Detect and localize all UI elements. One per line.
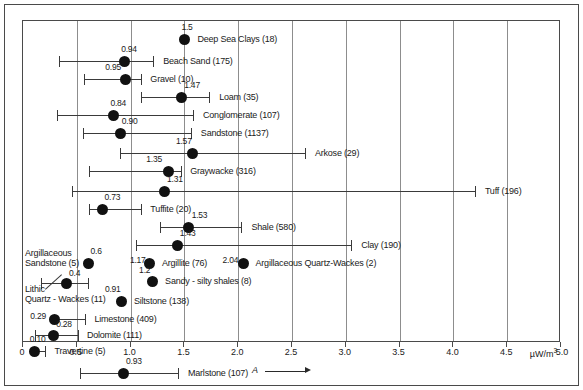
whisker-cap-low	[141, 92, 142, 103]
mean-value-label: 0.28	[56, 320, 72, 329]
whisker-cap-low	[84, 74, 85, 85]
mean-value-label: 0.94	[121, 45, 137, 54]
mean-value-label: 1.57	[176, 137, 192, 146]
x-axis: 00.51.01.52.02.53.03.54.04.55.0 µW/m3	[22, 342, 560, 356]
x-axis-title: A	[22, 365, 560, 379]
axis-tick-label: 4.0	[446, 347, 459, 357]
data-row: 1.35Graywacke (316)	[23, 163, 559, 181]
axis-tick-label: 1.5	[177, 347, 190, 357]
mean-value-label: 0.84	[110, 99, 126, 108]
data-row: 1.43Clay (190)	[23, 237, 559, 255]
mean-dot[interactable]	[48, 330, 59, 341]
mean-value-label: 0.29	[30, 312, 46, 321]
axis-tick-label: 3.0	[339, 347, 352, 357]
data-row: 0.95Gravel (10)	[23, 71, 559, 89]
range-whisker	[72, 191, 474, 192]
data-row: 1.57Arkose (29)	[23, 145, 559, 163]
argillaceous-sandstone-label: ArgillaceousSandstone (5)	[25, 249, 79, 268]
range-whisker	[83, 133, 191, 134]
mean-value-label: 2.04	[223, 256, 239, 265]
mean-value-label: 1.43	[180, 229, 196, 238]
mean-value-label: 0.73	[105, 193, 121, 202]
data-row: 0.90Sandstone (1137)	[23, 125, 559, 143]
whisker-cap-low	[89, 166, 90, 177]
mean-dot[interactable]	[120, 74, 131, 85]
series-label: Conglomerate (107)	[203, 110, 279, 120]
mean-value-label: 1.53	[192, 211, 208, 220]
mean-value-label: 0.95	[105, 63, 121, 72]
whisker-cap-high	[78, 330, 79, 341]
figure-root: 1.5Deep Sea Clays (18)0.94Beach Sand (17…	[0, 0, 583, 390]
series-label: Arkose (29)	[315, 148, 359, 158]
series-label: Loam (35)	[219, 92, 258, 102]
whisker-cap-high	[209, 92, 210, 103]
x-axis-arrow-line	[265, 371, 307, 372]
data-row: 0.94Beach Sand (175)	[23, 53, 559, 71]
mean-dot[interactable]	[108, 110, 119, 121]
mean-value-label: 1.5	[181, 23, 192, 32]
whisker-cap-high	[241, 222, 242, 233]
x-axis-unit: µW/m3	[530, 347, 557, 359]
series-label: Clay (190)	[361, 240, 401, 250]
axis-tick-label: 2.0	[231, 347, 244, 357]
whisker-cap-high	[193, 110, 194, 121]
mean-dot[interactable]	[147, 276, 158, 287]
series-label: Sandstone (1137)	[201, 128, 269, 138]
whisker-cap-low	[59, 56, 60, 67]
data-rows: 1.5Deep Sea Clays (18)0.94Beach Sand (17…	[23, 21, 559, 341]
mean-dot[interactable]	[97, 204, 108, 215]
mean-value-label: 0.91	[105, 285, 121, 294]
mean-dot[interactable]	[116, 296, 127, 307]
data-row: 2.04Argillaceous Quartz-Wackes (2)	[23, 255, 559, 273]
series-label: Siltstone (138)	[134, 296, 189, 306]
series-label: Tuff (196)	[485, 186, 522, 196]
x-axis-arrow-head	[305, 367, 311, 373]
mean-dot[interactable]	[176, 92, 187, 103]
mean-dot[interactable]	[238, 258, 249, 269]
mean-dot[interactable]	[187, 148, 198, 159]
mean-dot[interactable]	[179, 34, 190, 45]
range-whisker	[136, 245, 351, 246]
data-row: 1.47Loam (35)	[23, 89, 559, 107]
lithic-quartz-wackes-label: LithicQuartz - Wackes (11)	[25, 285, 106, 304]
data-row: 1.53Shale (580)	[23, 219, 559, 237]
mean-value-label: 1.47	[184, 81, 200, 90]
whisker-cap-high	[141, 74, 142, 85]
whisker-cap-high	[141, 204, 142, 215]
whisker-cap-low	[160, 222, 161, 233]
plot-area: 1.5Deep Sea Clays (18)0.94Beach Sand (17…	[22, 20, 560, 342]
whisker-cap-high	[475, 186, 476, 197]
axis-tick-label: 0	[19, 347, 24, 357]
whisker-cap-low	[120, 148, 121, 159]
range-whisker	[84, 79, 141, 80]
whisker-cap-high	[351, 240, 352, 251]
series-label: Sandy - silty shales (8)	[165, 276, 251, 286]
axis-tick-label: 1.0	[123, 347, 136, 357]
series-label: Deep Sea Clays (18)	[197, 34, 277, 44]
series-label: Beach Sand (175)	[163, 56, 232, 66]
whisker-cap-low	[136, 240, 137, 251]
series-label: Argillaceous Quartz-Wackes (2)	[256, 258, 377, 268]
mean-value-label: 1.2	[139, 266, 150, 275]
data-row: 0.84Conglomerate (107)	[23, 107, 559, 125]
mean-value-label: 1.31	[167, 175, 183, 184]
whisker-cap-high	[305, 148, 306, 159]
series-label: Limestone (409)	[94, 314, 156, 324]
series-label: Tuffite (20)	[150, 204, 191, 214]
series-label: Graywacke (316)	[190, 166, 256, 176]
argillaceous-sandstone-label-line: Sandstone (5)	[25, 259, 79, 269]
mean-dot[interactable]	[115, 128, 126, 139]
whisker-cap-low	[72, 186, 73, 197]
mean-value-label: 0.90	[122, 117, 138, 126]
whisker-cap-low	[83, 128, 84, 139]
axis-tick-label: 3.5	[392, 347, 405, 357]
mean-dot[interactable]	[159, 186, 170, 197]
series-label: Shale (580)	[251, 222, 295, 232]
data-row: 1.31Tuff (196)	[23, 183, 559, 201]
lithic-quartz-wackes-label-line: Quartz - Wackes (11)	[25, 295, 106, 305]
x-axis-title-glyph: A	[252, 365, 258, 375]
axis-tick-label: 2.5	[285, 347, 298, 357]
whisker-cap-high	[85, 314, 86, 325]
axis-tick-label: 0.5	[70, 347, 83, 357]
mean-dot[interactable]	[172, 240, 183, 251]
